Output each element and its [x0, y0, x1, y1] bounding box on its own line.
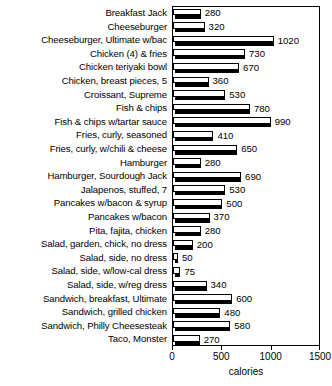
category-label: Salad, side, w/low-cal dress	[51, 264, 167, 278]
bar-value-label: 530	[229, 88, 245, 102]
bar-value-label: 990	[275, 115, 291, 129]
bar-shadow	[175, 14, 201, 18]
plot-area: 2803201020730670360530780990410650280690…	[172, 6, 320, 346]
bar-shadow	[175, 341, 200, 345]
category-label: Sandwich, breakfast, Ultimate	[43, 292, 167, 306]
bar-shadow	[175, 300, 233, 304]
bar-value-label: 280	[205, 224, 221, 238]
bar-row: 690	[173, 170, 319, 184]
bar-value-label: 270	[204, 333, 220, 347]
bar-shadow	[175, 327, 231, 331]
category-label: Chicken, breast pieces, 5	[62, 74, 167, 88]
bar-row: 500	[173, 197, 319, 211]
bar-value-label: 650	[241, 142, 257, 156]
bar-value-label: 530	[229, 183, 245, 197]
bar-value-label: 280	[205, 156, 221, 170]
category-label: Cheeseburger	[107, 20, 167, 34]
bar-row: 1020	[173, 34, 319, 48]
bar-row: 360	[173, 75, 319, 89]
bar-shadow	[175, 150, 238, 154]
category-label: Chicken teriyaki bowl	[79, 60, 167, 74]
bar-value-label: 360	[213, 74, 229, 88]
category-label: Taco, Monster	[108, 332, 167, 346]
category-label: Sandwich, grilled chicken	[62, 305, 167, 319]
bar-value-label: 670	[243, 61, 259, 75]
bar-row: 670	[173, 61, 319, 75]
bar-shadow	[175, 55, 246, 59]
category-label: Hamburger, Sourdough Jack	[47, 169, 167, 183]
x-tick-mark	[172, 346, 173, 350]
bar-row: 280	[173, 7, 319, 21]
bar-shadow	[175, 273, 181, 277]
bar-row: 580	[173, 320, 319, 334]
bar-value-label: 500	[226, 197, 242, 211]
bar-row: 730	[173, 48, 319, 62]
bar-value-label: 320	[209, 20, 225, 34]
bar-row: 280	[173, 225, 319, 239]
x-tick-label: 500	[213, 351, 230, 363]
bar-row: 280	[173, 157, 319, 171]
category-label: Fries, curly, seasoned	[76, 128, 167, 142]
category-label: Fish & chips w/tartar sauce	[55, 115, 167, 129]
bar-shadow	[175, 232, 201, 236]
bar-shadow	[175, 246, 193, 250]
bar-row: 50	[173, 252, 319, 266]
category-label: Breakfast Jack	[105, 6, 167, 20]
category-label: Salad, side, w/reg dress	[67, 278, 167, 292]
x-tick-mark	[271, 346, 272, 350]
bar-row: 410	[173, 129, 319, 143]
bar-row: 650	[173, 143, 319, 157]
bar-value-label: 780	[254, 102, 270, 116]
bar-value-label: 370	[214, 210, 230, 224]
bar-shadow	[175, 218, 210, 222]
bar-row: 990	[173, 116, 319, 130]
category-label: Cheeseburger, Ultimate w/bac	[41, 33, 167, 47]
bar-row: 480	[173, 306, 319, 320]
bar-shadow	[175, 137, 214, 141]
bar-value-label: 340	[211, 278, 227, 292]
bar-shadow	[175, 123, 271, 127]
bar-value-label: 480	[224, 306, 240, 320]
bar-value-label: 1020	[278, 34, 299, 48]
bar-row: 600	[173, 293, 319, 307]
bar-row: 370	[173, 211, 319, 225]
bar-value-label: 730	[249, 47, 265, 61]
bar-row: 340	[173, 279, 319, 293]
bar-shadow	[175, 286, 207, 290]
category-label: Pita, fajita, chicken	[89, 224, 167, 238]
category-label: Jalapenos, stuffed, 7	[81, 183, 167, 197]
bar-row: 530	[173, 184, 319, 198]
bar-shadow	[175, 191, 226, 195]
x-tick-label: 1500	[309, 351, 331, 363]
category-label: Pancakes w/bacon & syrup	[54, 196, 167, 210]
x-tick-label: 0	[169, 351, 175, 363]
bar-value-label: 75	[184, 265, 195, 279]
category-label: Chicken (4) & fries	[90, 47, 167, 61]
x-axis: calories 050010001500	[172, 346, 320, 386]
bar-row: 320	[173, 21, 319, 35]
bar-row: 200	[173, 238, 319, 252]
bar-shadow	[175, 178, 242, 182]
bar-shadow	[175, 28, 205, 32]
bar-shadow	[175, 314, 221, 318]
bar-shadow	[175, 42, 274, 46]
category-label: Salad, side, no dress	[80, 251, 168, 265]
category-label: Croissant, Supreme	[84, 88, 167, 102]
bar-shadow	[175, 82, 209, 86]
bar-shadow	[175, 96, 226, 100]
category-label: Salad, garden, chick, no dress	[41, 237, 167, 251]
bar-value-label: 410	[217, 129, 233, 143]
x-tick-label: 1000	[260, 351, 282, 363]
bar-value-label: 50	[182, 251, 193, 265]
category-label: Sandwich, Philly Cheesesteak	[41, 319, 167, 333]
category-label: Pancakes w/bacon	[88, 210, 167, 224]
bar-row: 270	[173, 333, 319, 347]
category-label: Fries, curly, w/chili & cheese	[50, 142, 167, 156]
category-label: Hamburger	[120, 156, 167, 170]
x-tick-mark	[319, 346, 320, 350]
bar-row: 75	[173, 265, 319, 279]
bar-value-label: 600	[236, 292, 252, 306]
bar-shadow	[175, 205, 223, 209]
bar-value-label: 280	[205, 6, 221, 20]
bar-value-label: 690	[245, 170, 261, 184]
